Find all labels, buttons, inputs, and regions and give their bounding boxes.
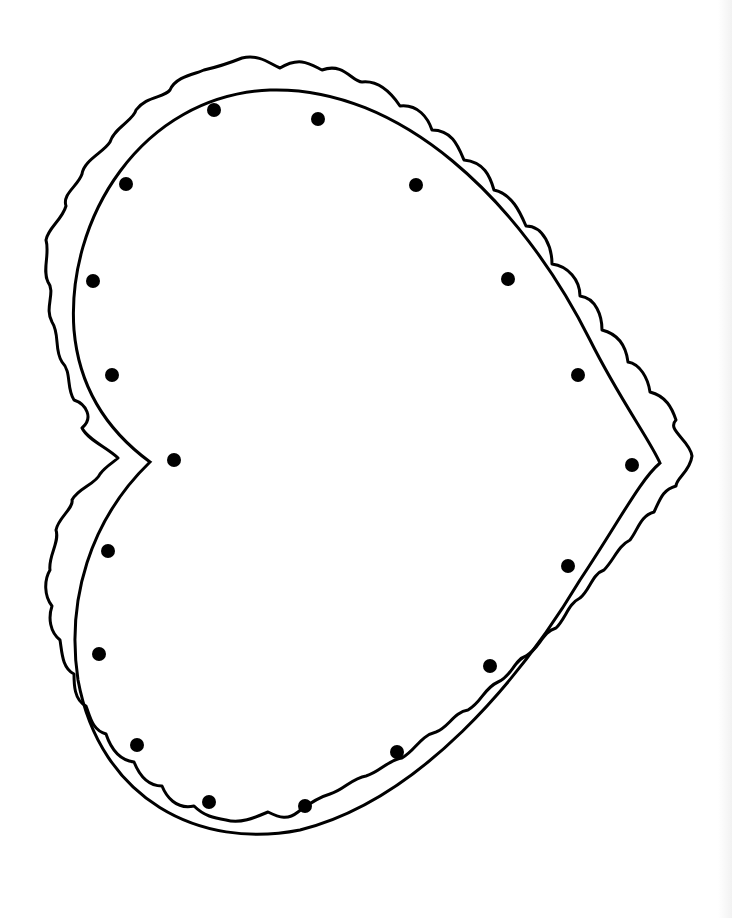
lacing-hole-dot — [561, 559, 575, 573]
lacing-hole-dot — [130, 738, 144, 752]
lacing-hole-dot — [390, 745, 404, 759]
lacing-holes — [86, 103, 639, 813]
lacing-hole-dot — [625, 458, 639, 472]
lacing-hole-dot — [298, 799, 312, 813]
heart-template — [0, 0, 732, 918]
page-edge-shadow — [718, 0, 732, 918]
lacing-hole-dot — [101, 544, 115, 558]
lacing-hole-dot — [501, 272, 515, 286]
lacing-hole-dot — [207, 103, 221, 117]
lacing-hole-dot — [311, 112, 325, 126]
lacing-hole-dot — [119, 177, 133, 191]
lacing-hole-dot — [167, 453, 181, 467]
lacing-hole-dot — [202, 795, 216, 809]
lacing-hole-dot — [86, 274, 100, 288]
lacing-hole-dot — [92, 647, 106, 661]
lacing-hole-dot — [105, 368, 119, 382]
lacing-hole-dot — [409, 178, 423, 192]
scalloped-outer-outline — [46, 57, 692, 821]
lacing-hole-dot — [571, 368, 585, 382]
heart-inner-outline — [73, 90, 660, 834]
lacing-hole-dot — [483, 659, 497, 673]
